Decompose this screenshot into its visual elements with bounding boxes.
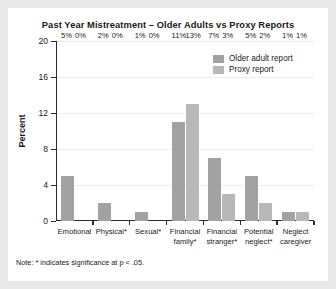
bar[interactable]: 2% bbox=[98, 203, 111, 221]
bar-slot: 11% bbox=[172, 41, 185, 221]
x-axis-label: Neglect caregiver bbox=[277, 227, 314, 246]
bar[interactable]: 11% bbox=[172, 122, 185, 221]
bar-group: 11%13% bbox=[167, 41, 204, 221]
bar-slot: 1% bbox=[135, 41, 148, 221]
bar-slot: 5% bbox=[61, 41, 74, 221]
x-tick-mark bbox=[276, 221, 277, 225]
y-tick-label: 0 bbox=[43, 216, 48, 226]
bar[interactable]: 1% bbox=[296, 212, 309, 221]
bar-slot: 0% bbox=[112, 41, 125, 221]
bar-value-label: 0% bbox=[75, 31, 86, 40]
bar-slot: 1% bbox=[296, 41, 309, 221]
bar-group: 1%0% bbox=[130, 41, 167, 221]
bar-value-label: 0% bbox=[112, 31, 123, 40]
bar[interactable]: 1% bbox=[282, 212, 295, 221]
bar-group: 5%0% bbox=[56, 41, 93, 221]
bar[interactable]: 1% bbox=[135, 212, 148, 221]
x-axis-label: Physical* bbox=[93, 227, 130, 246]
x-tick-mark bbox=[129, 221, 130, 225]
x-axis-label: Sexual* bbox=[130, 227, 167, 246]
y-tick-label: 4 bbox=[43, 180, 48, 190]
x-axis-labels: EmotionalPhysical*Sexual*Financial famil… bbox=[56, 227, 314, 246]
x-tick-mark bbox=[92, 221, 93, 225]
bar-value-label: 1% bbox=[296, 31, 307, 40]
y-tick-label: 12 bbox=[38, 108, 48, 118]
bar-slot: 0% bbox=[75, 41, 88, 221]
x-axis-label: Financial stranger* bbox=[203, 227, 240, 246]
y-tick-label: 8 bbox=[43, 144, 48, 154]
bar-value-label: 2% bbox=[98, 31, 109, 40]
x-tick-mark bbox=[203, 221, 204, 225]
bar[interactable]: 3% bbox=[222, 194, 235, 221]
bar-value-label: 13% bbox=[186, 31, 201, 40]
chart-footnote: Note: * indicates significance at p < .0… bbox=[16, 258, 144, 267]
x-tick-mark bbox=[166, 221, 167, 225]
x-axis-label: Potential neglect* bbox=[240, 227, 277, 246]
x-axis-label: Emotional bbox=[56, 227, 93, 246]
chart-legend: Older adult reportProxy report bbox=[213, 54, 293, 74]
bar[interactable]: 7% bbox=[208, 158, 221, 221]
bar-group: 2%0% bbox=[93, 41, 130, 221]
x-tick-mark bbox=[313, 221, 314, 225]
bar-value-label: 7% bbox=[208, 31, 219, 40]
bar[interactable]: 13% bbox=[186, 104, 199, 221]
bar-slot: 0% bbox=[149, 41, 162, 221]
x-tick-mark bbox=[240, 221, 241, 225]
bar-value-label: 1% bbox=[135, 31, 146, 40]
bar-slot: 2% bbox=[98, 41, 111, 221]
bar-value-label: 3% bbox=[222, 31, 233, 40]
legend-item[interactable]: Proxy report bbox=[213, 65, 293, 74]
bar-value-label: 5% bbox=[61, 31, 72, 40]
y-tick-label: 16 bbox=[38, 72, 48, 82]
bar[interactable]: 2% bbox=[259, 203, 272, 221]
bar-value-label: 11% bbox=[172, 31, 187, 40]
y-tick-label: 20 bbox=[38, 36, 48, 46]
bar-value-label: 0% bbox=[149, 31, 160, 40]
bar-value-label: 5% bbox=[245, 31, 256, 40]
bar-value-label: 2% bbox=[259, 31, 270, 40]
bar[interactable]: 5% bbox=[61, 176, 74, 221]
chart-figure: Past Year Mistreatment – Older Adults vs… bbox=[8, 8, 328, 281]
y-axis-label: Percent bbox=[17, 114, 27, 147]
legend-label: Proxy report bbox=[229, 65, 274, 74]
legend-item[interactable]: Older adult report bbox=[213, 54, 293, 63]
legend-swatch bbox=[213, 55, 224, 63]
x-axis-label: Financial family* bbox=[167, 227, 204, 246]
bar-slot: 13% bbox=[186, 41, 199, 221]
chart-title: Past Year Mistreatment – Older Adults vs… bbox=[8, 20, 328, 30]
bar-value-label: 1% bbox=[282, 31, 293, 40]
legend-label: Older adult report bbox=[229, 54, 293, 63]
y-tick-mark bbox=[51, 221, 56, 222]
legend-swatch bbox=[213, 66, 224, 74]
bar[interactable]: 5% bbox=[245, 176, 258, 221]
